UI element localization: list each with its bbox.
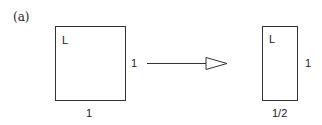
half-rectangle	[263, 27, 298, 101]
arrow-head-icon	[206, 58, 227, 70]
left-corner-label: L	[62, 35, 68, 46]
right-bottom-label: 1/2	[272, 108, 287, 119]
right-corner-label: L	[269, 34, 275, 45]
left-bottom-label: 1	[86, 108, 92, 119]
right-side-label: 1	[305, 58, 311, 69]
left-side-label: 1	[131, 58, 137, 69]
panel-label: (a)	[13, 11, 30, 23]
diagram: (a) L 1 1 L 1 1/2	[0, 0, 322, 125]
